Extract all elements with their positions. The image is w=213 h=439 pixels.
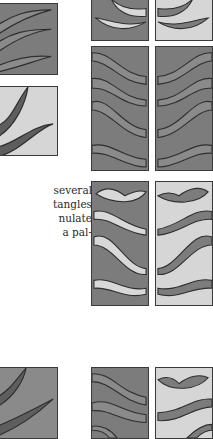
outlined-bands-mirrored-graphic	[156, 47, 212, 170]
dark-ribbons-graphic	[0, 368, 57, 438]
outlined-bands-graphic	[92, 47, 148, 170]
grid-r3-left	[91, 181, 149, 306]
light-ribbons-graphic	[92, 182, 148, 305]
text-line-1: several	[0, 183, 92, 197]
dark-ribbons-graphic	[156, 368, 212, 438]
left-panel-2	[0, 86, 58, 156]
text-line-2: tangles	[0, 197, 92, 211]
body-text-fragment: several tangles nulate a pal-	[0, 183, 92, 239]
dark-ribbons-graphic	[156, 182, 212, 305]
grid-r2-left	[91, 46, 149, 171]
light-ribbons-graphic	[92, 0, 148, 40]
wave-bands-graphic	[0, 4, 57, 74]
grid-r4-left	[91, 367, 149, 439]
text-line-3: nulate	[0, 211, 92, 225]
grid-r4-right	[155, 367, 213, 439]
grid-r1-left	[91, 0, 149, 41]
grid-r1-right	[155, 0, 213, 41]
dark-ribbons-graphic	[0, 87, 57, 155]
grid-r2-right	[155, 46, 213, 171]
grid-r3-right	[155, 181, 213, 306]
left-panel-1	[0, 3, 58, 75]
dark-ribbons-graphic	[156, 0, 212, 40]
outlined-bands-graphic	[92, 368, 148, 438]
left-panel-3	[0, 367, 58, 439]
text-line-4: a pal-	[0, 225, 92, 239]
